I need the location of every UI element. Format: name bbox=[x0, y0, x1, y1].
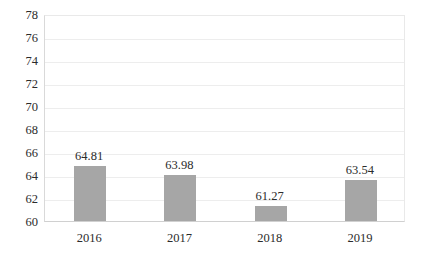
y-axis-tick-label: 76 bbox=[4, 32, 38, 45]
y-axis-tick-label: 72 bbox=[4, 78, 38, 91]
bar-value-label: 61.27 bbox=[230, 190, 310, 203]
gridline bbox=[45, 108, 404, 109]
gridline bbox=[45, 131, 404, 132]
bar bbox=[345, 180, 377, 221]
bar-value-label: 64.81 bbox=[49, 150, 129, 163]
bar bbox=[255, 206, 287, 221]
gridline bbox=[45, 85, 404, 86]
y-axis-tick-label: 74 bbox=[4, 55, 38, 68]
plot-area bbox=[44, 15, 405, 222]
bar-value-label: 63.98 bbox=[139, 159, 219, 172]
x-axis-category-label: 2017 bbox=[139, 232, 219, 245]
y-axis-tick-label: 66 bbox=[4, 147, 38, 160]
y-axis-tick-label: 68 bbox=[4, 124, 38, 137]
y-axis-tick-label: 64 bbox=[4, 170, 38, 183]
bar bbox=[164, 175, 196, 221]
y-axis-tick-label: 62 bbox=[4, 193, 38, 206]
x-axis-category-label: 2016 bbox=[49, 232, 129, 245]
y-axis-tick-label: 78 bbox=[4, 9, 38, 22]
gridline bbox=[45, 62, 404, 63]
x-axis-category-label: 2018 bbox=[230, 232, 310, 245]
gridline bbox=[45, 39, 404, 40]
y-axis-tick-label: 70 bbox=[4, 101, 38, 114]
bar-chart: 78767472706866646260 64.8163.9861.2763.5… bbox=[0, 0, 425, 260]
bar-value-label: 63.54 bbox=[320, 164, 400, 177]
x-axis-category-label: 2019 bbox=[320, 232, 400, 245]
y-axis-tick-label: 60 bbox=[4, 216, 38, 229]
bar bbox=[74, 166, 106, 221]
